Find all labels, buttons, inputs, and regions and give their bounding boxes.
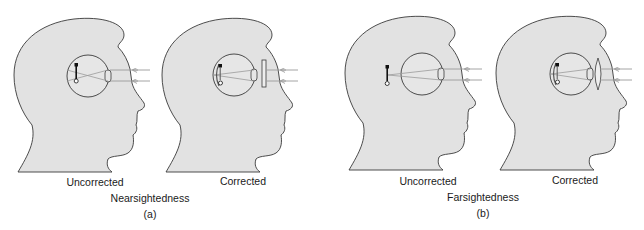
label-farsighted-uncorrected: Uncorrected: [399, 175, 456, 187]
caption-nearsightedness: Nearsightedness: [111, 192, 190, 204]
head-farsighted-uncorrected: [345, 16, 476, 170]
caption-letter-b: (b): [477, 207, 490, 219]
head-farsighted-corrected: [496, 16, 627, 170]
label-farsighted-corrected: Corrected: [552, 174, 598, 186]
eye-correction-diagram: [0, 0, 644, 230]
caption-farsightedness: Farsightedness: [447, 191, 519, 203]
label-nearsighted-corrected: Corrected: [220, 175, 266, 187]
concave-lens-icon: [262, 60, 266, 87]
caption-letter-a: (a): [144, 208, 157, 220]
label-nearsighted-uncorrected: Uncorrected: [66, 176, 123, 188]
